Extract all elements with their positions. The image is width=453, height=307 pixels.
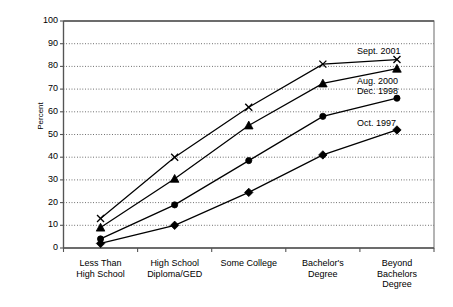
y-tick-label: 90: [36, 39, 58, 48]
marker-diamond: [170, 221, 178, 229]
y-tick-label: 20: [36, 198, 58, 207]
series-line: [101, 69, 397, 228]
x-tick-label-line: Diploma/GED: [130, 269, 220, 280]
y-tick-label: 50: [36, 130, 58, 139]
marker-triangle: [393, 64, 402, 72]
chart-figure: Percent 0102030405060708090100 Less Than…: [0, 0, 453, 307]
series-line: [101, 130, 397, 244]
series-annotation: Oct. 1997: [357, 118, 396, 128]
y-tick-label: 40: [36, 152, 58, 161]
marker-diamond: [319, 151, 327, 159]
y-tick-label: 70: [36, 84, 58, 93]
series-annotation: Aug. 2000: [357, 76, 398, 86]
marker-triangle: [244, 121, 253, 129]
marker-circle: [172, 202, 178, 208]
marker-triangle: [96, 223, 105, 231]
y-tick-label: 100: [36, 16, 58, 25]
y-tick-label: 80: [36, 61, 58, 70]
x-tick-label-line: Degree: [352, 279, 442, 290]
series-annotation: Sept. 2001: [357, 46, 401, 56]
x-tick-label-line: Beyond: [352, 258, 442, 269]
x-tick-label: BeyondBachelorsDegree: [352, 258, 442, 290]
x-tick-label-line: Bachelors: [352, 269, 442, 280]
marker-circle: [320, 113, 326, 119]
marker-diamond: [245, 188, 253, 196]
series-annotation: Dec. 1998: [357, 86, 398, 96]
y-tick-label: 0: [36, 243, 58, 252]
marker-triangle: [170, 174, 179, 182]
series-line: [101, 98, 397, 239]
y-tick-label: 60: [36, 107, 58, 116]
marker-circle: [246, 158, 252, 164]
y-tick-label: 30: [36, 175, 58, 184]
y-tick-label: 10: [36, 220, 58, 229]
